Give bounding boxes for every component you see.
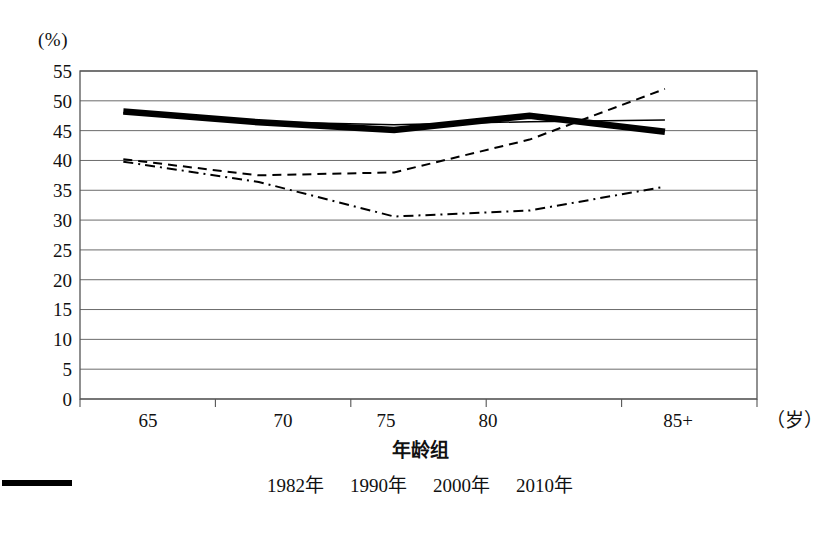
x-tick-85plus: 85+ [648,411,708,430]
legend-label-1982: 1982年 [267,476,324,495]
legend-item-1982[interactable]: 1982年 [267,476,324,495]
x-tick-70: 70 [253,411,313,430]
line-chart: (%) 55 50 45 40 35 30 25 20 15 10 5 0 65… [0,0,840,536]
legend-label-2010: 2010年 [516,476,573,495]
x-tick-75: 75 [356,411,416,430]
x-tick-80: 80 [458,411,518,430]
legend-item-1990[interactable]: 1990年 [350,476,407,495]
legend-label-2000: 2000年 [433,476,490,495]
legend-label-1990: 1990年 [350,476,407,495]
chart-legend: 1982年 1990年 2000年 2010年 [0,476,840,495]
x-axis-title: 年龄组 [0,440,840,460]
legend-swatch-dash-dot [0,476,74,490]
x-tick-65: 65 [118,411,178,430]
legend-item-2010[interactable]: 2010年 [516,476,573,495]
x-axis-unit-label: （岁） [766,411,823,430]
legend-item-2000[interactable]: 2000年 [433,476,490,495]
